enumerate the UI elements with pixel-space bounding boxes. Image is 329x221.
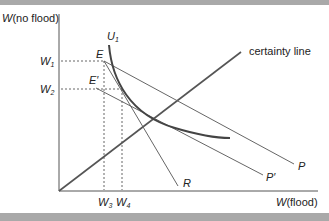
y-tick-w2: W2 [40, 83, 54, 96]
x-tick-w4: W4 [116, 196, 130, 209]
y-axis-label: W(no flood) [2, 12, 59, 24]
x-tick-w3: W3 [98, 196, 112, 209]
certainty-line-label: certainty line [249, 45, 311, 57]
point-e-label: E [96, 48, 104, 60]
insurance-diagram: W(no flood) W1 W2 W3 W4 W(flood) E E′ U1… [0, 0, 329, 221]
certainty-line [59, 52, 241, 191]
indifference-curve-u1 [109, 45, 230, 138]
line-r-label: R [183, 177, 191, 189]
line-p-label: P [298, 160, 306, 172]
y-tick-w1: W1 [40, 55, 54, 68]
point-e-prime-label: E′ [89, 74, 99, 86]
budget-line-p [104, 61, 294, 164]
line-p-prime-label: P′ [266, 171, 276, 183]
curve-u1-label: U1 [107, 30, 119, 43]
budget-line-r [104, 61, 178, 186]
budget-line-p-prime [96, 88, 263, 175]
x-axis-label: W(flood) [276, 196, 318, 208]
